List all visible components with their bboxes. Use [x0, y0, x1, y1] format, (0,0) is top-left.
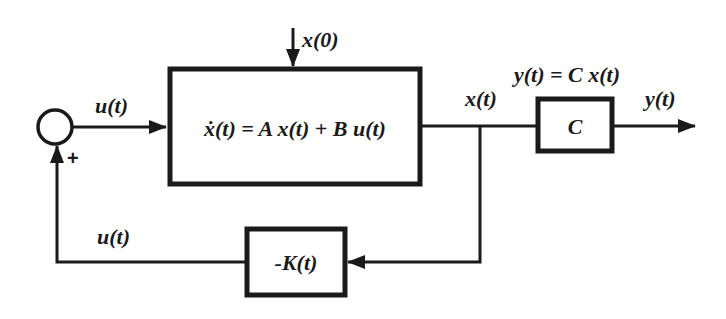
input-label-feedback: u(t)	[97, 224, 130, 249]
summing-junction	[38, 110, 72, 144]
output-label: y(t)	[642, 86, 676, 111]
block-diagram: + u(t) x(0) ẋ(t) = A x(t) + B u(t) x(t) …	[0, 0, 726, 319]
output-matrix-label: C	[568, 114, 583, 139]
plant-equation: ẋ(t) = A x(t) + B u(t)	[203, 116, 386, 141]
gain-label: -K(t)	[275, 250, 318, 275]
output-equation-label: y(t) = C x(t)	[511, 62, 620, 87]
plus-sign: +	[67, 147, 79, 169]
input-label-top: u(t)	[95, 93, 128, 118]
initial-state-label: x(0)	[301, 27, 339, 52]
state-label: x(t)	[464, 86, 497, 111]
